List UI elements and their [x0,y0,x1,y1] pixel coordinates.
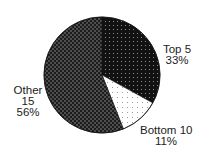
slice-label-other-percent: 56% [12,107,44,118]
slice-label-other: Other 15 56% [12,85,44,118]
slice-label-bottom10-percent: 11% [140,136,192,147]
slice-label-top5: Top 5 33% [160,44,194,66]
slice-label-bottom10: Bottom 10 11% [140,125,192,147]
pie-slices [44,17,160,133]
slice-label-top5-percent: 33% [160,55,194,66]
